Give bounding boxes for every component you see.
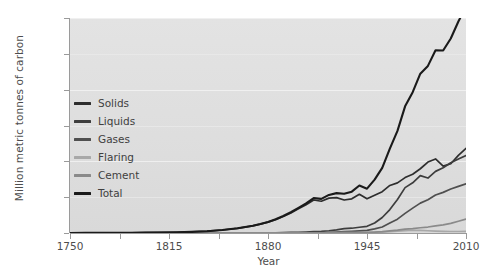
y-axis-line <box>69 18 70 233</box>
x-tick-minor-1847.5 <box>219 234 220 239</box>
x-tick-1880 <box>268 234 269 239</box>
legend-item-cement[interactable]: Cement <box>74 166 139 184</box>
legend: SolidsLiquidsGasesFlaringCementTotal <box>74 94 139 202</box>
legend-label: Gases <box>98 134 130 145</box>
x-tick-minor-1782.5 <box>120 234 121 239</box>
legend-swatch-icon-liquids <box>74 120 91 123</box>
legend-label: Cement <box>98 170 139 181</box>
legend-item-flaring[interactable]: Flaring <box>74 148 139 166</box>
legend-swatch-icon-solids <box>74 102 91 105</box>
y-tick-7500 <box>64 54 69 55</box>
legend-item-liquids[interactable]: Liquids <box>74 112 139 130</box>
y-axis-title: Million metric tonnes of carbon <box>13 18 25 218</box>
x-tick-2010 <box>466 234 467 239</box>
x-tick-label-1750: 1750 <box>40 240 100 252</box>
legend-label: Flaring <box>98 152 134 163</box>
legend-item-total[interactable]: Total <box>74 184 139 202</box>
y-tick-3000 <box>64 161 69 162</box>
legend-label: Solids <box>98 98 129 109</box>
legend-swatch-icon-cement <box>74 174 91 177</box>
x-tick-label-1815: 1815 <box>139 240 199 252</box>
x-tick-1945 <box>367 234 368 239</box>
x-axis-title: Year <box>70 255 467 267</box>
y-tick-0 <box>64 233 69 234</box>
y-tick-9000 <box>64 18 69 19</box>
x-tick-label-1880: 1880 <box>238 240 298 252</box>
legend-label: Total <box>98 188 123 199</box>
legend-label: Liquids <box>98 116 135 127</box>
x-tick-1815 <box>169 234 170 239</box>
x-tick-1750 <box>70 234 71 239</box>
y-tick-1500 <box>64 197 69 198</box>
x-tick-label-1945: 1945 <box>337 240 397 252</box>
y-tick-6000 <box>64 90 69 91</box>
x-tick-label-2010: 2010 <box>436 240 495 252</box>
legend-item-solids[interactable]: Solids <box>74 94 139 112</box>
legend-swatch-icon-gases <box>74 138 91 141</box>
x-tick-minor-1977.5 <box>417 234 418 239</box>
x-tick-minor-1912.5 <box>318 234 319 239</box>
legend-swatch-icon-total <box>74 192 91 195</box>
y-tick-4500 <box>64 126 69 127</box>
legend-swatch-icon-flaring <box>74 156 91 159</box>
legend-item-gases[interactable]: Gases <box>74 130 139 148</box>
emissions-line-chart: Million metric tonnes of carbon 03000600… <box>0 0 495 269</box>
